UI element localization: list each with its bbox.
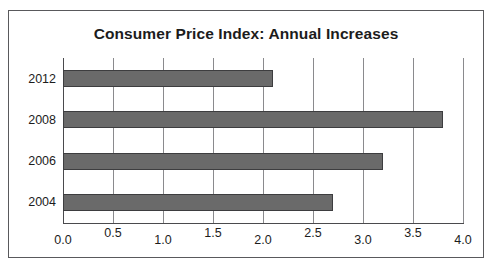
bar-row: 2012 xyxy=(63,70,463,87)
category-label-2006: 2006 xyxy=(28,154,56,168)
bar-series: 2012200820062004 xyxy=(63,58,463,223)
bar-2006 xyxy=(63,153,383,170)
x-tick-label-0.0: 0.0 xyxy=(54,233,71,247)
category-label-2008: 2008 xyxy=(28,113,56,127)
bar-row: 2004 xyxy=(63,194,463,211)
bar-row: 2006 xyxy=(63,153,463,170)
x-tick-label-2.0: 2.0 xyxy=(254,233,271,247)
gridline-4.0 xyxy=(463,58,464,223)
x-tick-label-2.5: 2.5 xyxy=(304,226,321,240)
plot-area: 2012200820062004 xyxy=(63,58,463,223)
x-tick-label-3.5: 3.5 xyxy=(404,226,421,240)
x-axis-line xyxy=(63,223,464,224)
category-label-2012: 2012 xyxy=(28,72,56,86)
chart-title: Consumer Price Index: Annual Increases xyxy=(9,25,483,43)
x-tick-label-3.0: 3.0 xyxy=(354,233,371,247)
x-tick-label-4.0: 4.0 xyxy=(454,233,471,247)
bar-2008 xyxy=(63,111,443,128)
x-tick-label-1.5: 1.5 xyxy=(204,226,221,240)
bar-2012 xyxy=(63,70,273,87)
bar-row: 2008 xyxy=(63,111,463,128)
bar-2004 xyxy=(63,194,333,211)
category-label-2004: 2004 xyxy=(28,195,56,209)
x-tick-label-0.5: 0.5 xyxy=(104,226,121,240)
x-tick-label-1.0: 1.0 xyxy=(154,233,171,247)
chart-frame: Consumer Price Index: Annual Increases 2… xyxy=(8,10,484,258)
